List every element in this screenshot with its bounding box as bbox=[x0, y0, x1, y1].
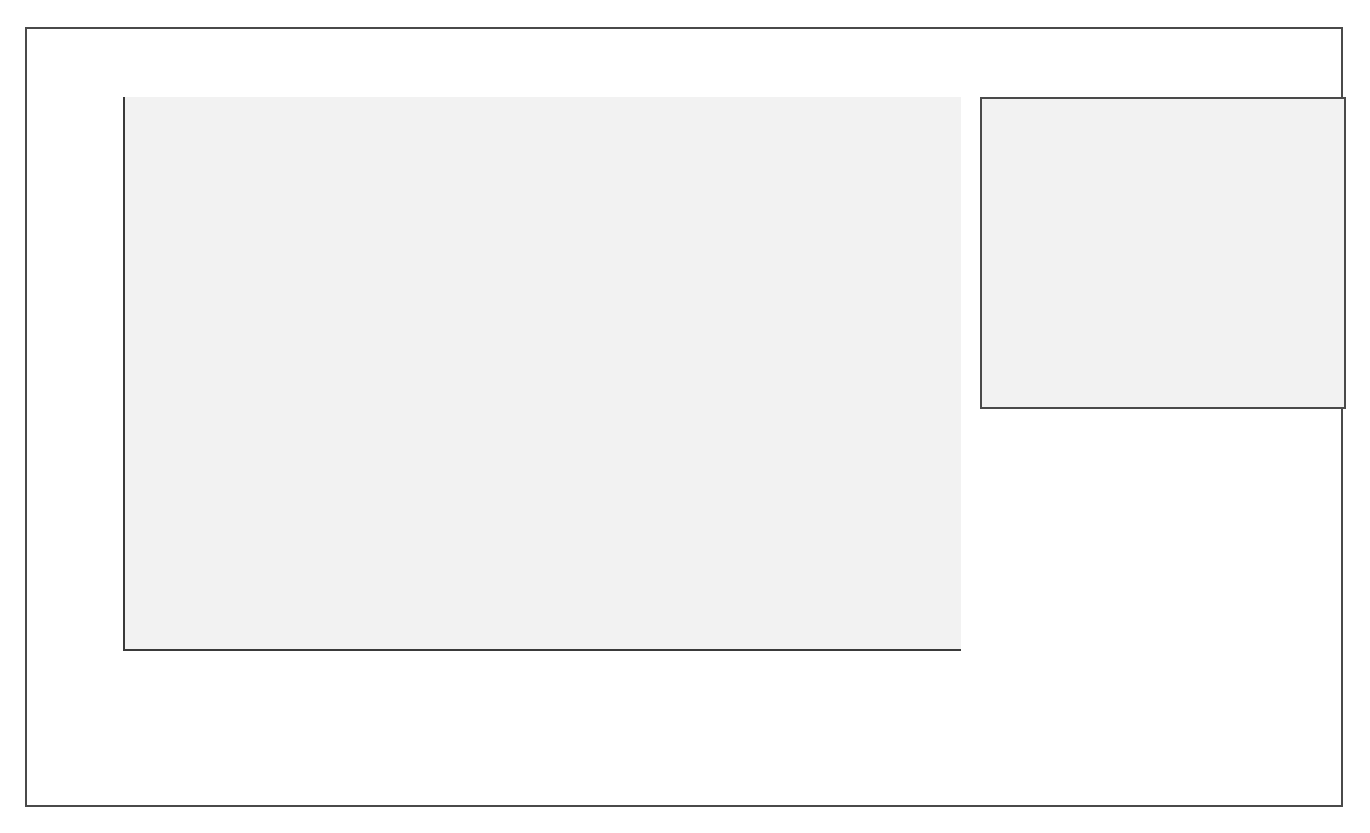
plot-area bbox=[123, 97, 961, 651]
figure bbox=[0, 0, 1370, 833]
sres-brace-annotation bbox=[123, 719, 959, 799]
figure-frame bbox=[25, 27, 1343, 807]
sres-brace-icon bbox=[123, 719, 959, 763]
legend bbox=[980, 97, 1346, 409]
